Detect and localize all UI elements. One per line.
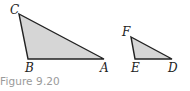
vertex-label-f: F: [121, 25, 131, 39]
vertex-label-a: A: [99, 61, 109, 75]
vertex-label-d: D: [167, 61, 178, 75]
vertex-label-c: C: [10, 3, 19, 17]
triangle-fed: [131, 37, 172, 59]
triangle-cba: [19, 14, 104, 59]
vertex-label-b: B: [24, 61, 34, 75]
vertex-label-e: E: [130, 61, 140, 75]
figure-caption: Figure 9.20: [0, 75, 60, 87]
